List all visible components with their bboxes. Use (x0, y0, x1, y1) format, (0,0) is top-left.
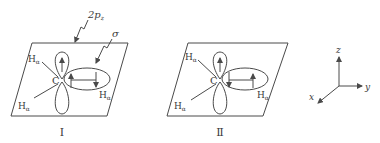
caption-1: Ⅰ (60, 126, 64, 139)
diagram-2-labels: C Hα Hα Hα Ⅱ (174, 52, 269, 139)
pz-lower-lobe (55, 82, 69, 114)
label-sigma: σ (112, 28, 120, 39)
axis-labels: z y x (309, 45, 371, 102)
caption-2: Ⅱ (216, 126, 223, 139)
z-axis-label: z (335, 45, 341, 55)
h-alpha-label-right: Hα (99, 90, 111, 101)
diagram-1 (11, 20, 128, 116)
y-axis-label: y (364, 82, 371, 92)
h-alpha-label-lower: Hα (174, 101, 186, 112)
diagram-1-labels: 2pz σ C Hα Hα Hα Ⅰ (18, 9, 120, 139)
pz-pointer (75, 20, 88, 42)
h-alpha-label-upper: Hα (28, 54, 40, 65)
carbon-label: C (210, 75, 218, 86)
coordinate-axes (318, 57, 362, 103)
bond-h-lower (34, 84, 58, 98)
methyl-radical-orbital-figure: 2pz σ C Hα Hα Hα Ⅰ C Hα Hα Hα Ⅱ z y x (0, 0, 380, 143)
h-alpha-label-upper: Hα (185, 52, 197, 63)
x-axis-label: x (309, 92, 314, 102)
x-axis-arrow (318, 86, 339, 103)
label-2pz: 2pz (87, 9, 105, 21)
carbon-label: C (52, 75, 60, 86)
h-alpha-label-right: Hα (257, 90, 269, 101)
pz-lower-lobe (213, 82, 227, 114)
h-alpha-label-lower: Hα (18, 101, 30, 112)
bond-h-lower (191, 84, 216, 100)
